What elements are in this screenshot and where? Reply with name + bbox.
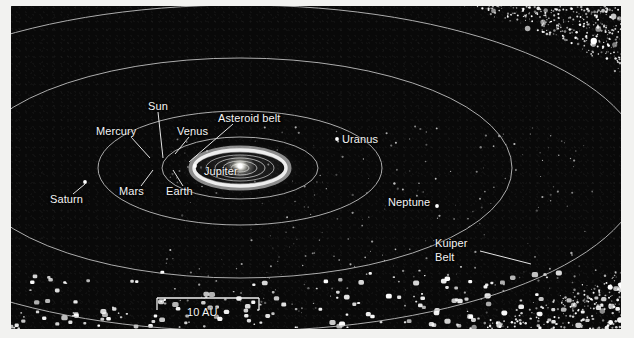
diagram-plate: Sun Mercury Venus Asteroid belt Mars Ear… <box>11 6 621 329</box>
solar-system-figure: Sun Mercury Venus Asteroid belt Mars Ear… <box>0 0 634 338</box>
scale-bar <box>11 6 621 329</box>
